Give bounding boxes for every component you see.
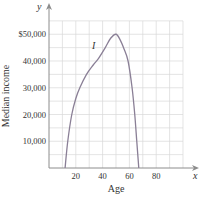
y-tick-label: 10,000 — [23, 136, 46, 146]
income-chart: 20406080 10,00020,00030,00040,000$50,000… — [0, 0, 204, 201]
axes — [46, 3, 199, 171]
x-tick-label: 40 — [98, 171, 107, 181]
y-axis-title: Median income — [0, 64, 11, 127]
curve-label: I — [91, 40, 96, 51]
y-tick-label: 30,000 — [23, 83, 46, 93]
grid-lines — [49, 21, 183, 168]
y-tick-label: $50,000 — [18, 29, 46, 39]
x-tick-label: 80 — [152, 171, 161, 181]
y-tick-label: 20,000 — [23, 110, 46, 120]
y-tick-labels: 10,00020,00030,00040,000$50,000 — [18, 29, 46, 146]
x-axis-title: Age — [108, 183, 125, 194]
y-variable-label: y — [36, 1, 42, 12]
y-tick-label: 40,000 — [23, 56, 46, 66]
x-tick-label: 60 — [125, 171, 134, 181]
x-tick-labels: 20406080 — [72, 171, 161, 181]
x-tick-label: 20 — [72, 171, 81, 181]
x-variable-label: x — [192, 170, 198, 181]
